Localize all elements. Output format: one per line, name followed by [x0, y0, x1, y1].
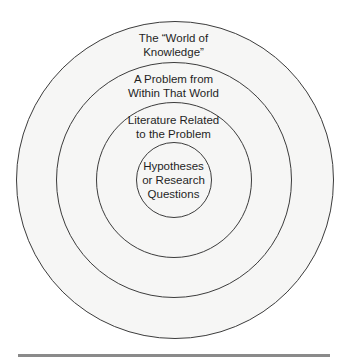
label-line: The “World of — [1, 31, 345, 45]
label-problem-within-world: A Problem from Within That World — [1, 72, 345, 100]
concentric-circles-diagram: The “World of Knowledge” A Problem from … — [0, 0, 345, 359]
label-related-literature: Literature Related to the Problem — [1, 113, 345, 141]
label-world-of-knowledge: The “World of Knowledge” — [1, 31, 345, 59]
label-hypotheses: Hypotheses or Research Questions — [1, 159, 345, 201]
label-line: A Problem from — [1, 72, 345, 86]
horizontal-rule — [18, 354, 330, 357]
label-line: Knowledge” — [1, 45, 345, 59]
label-line: Literature Related — [1, 113, 345, 127]
label-line: Questions — [1, 187, 345, 201]
label-line: to the Problem — [1, 127, 345, 141]
label-line: Within That World — [1, 86, 345, 100]
label-line: Hypotheses — [1, 159, 345, 173]
label-line: or Research — [1, 173, 345, 187]
